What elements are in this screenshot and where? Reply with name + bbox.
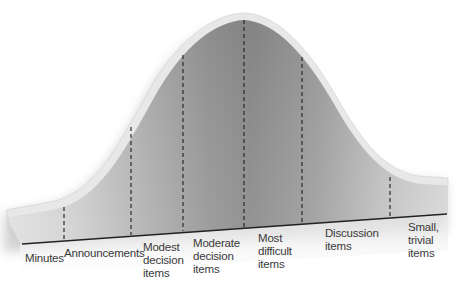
label-minutes: Minutes — [25, 252, 64, 265]
label-moderate-decision-items: Moderate decision items — [193, 237, 240, 276]
label-announcements: Announcements — [64, 247, 145, 260]
label-most-difficult-items: Most difficult items — [258, 232, 292, 271]
label-discussion-items: Discussion items — [325, 227, 379, 253]
label-small-trivial-items: Small, trivial items — [408, 221, 439, 260]
label-modest-decision-items: Modest decision items — [143, 241, 184, 280]
